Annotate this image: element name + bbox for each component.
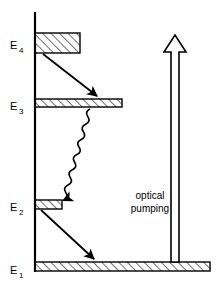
level-E1-label: E (10, 264, 17, 276)
level-E4-label: E (10, 39, 17, 51)
level-E4-subscript: 4 (19, 46, 24, 55)
level-E1-subscript: 1 (19, 271, 24, 280)
transition-e4-to-e3-arrow (43, 54, 97, 96)
level-E2-label: E (10, 201, 17, 213)
level-E3-subscript: 3 (19, 107, 24, 116)
level-E3-label: E (10, 100, 17, 112)
transition-e2-to-e1-arrow (41, 210, 94, 259)
level-E3: E 3 (10, 99, 122, 116)
optical-pumping-label-line1: optical (136, 190, 165, 201)
energy-diagram-canvas: E 4 E 3 E 2 E 1 optical pu (0, 0, 223, 285)
level-E1-bar (35, 262, 210, 271)
level-E2-bar (35, 200, 62, 209)
level-E1: E 1 (10, 262, 210, 280)
transition-e3-to-e2-wavy-arrow (64, 109, 90, 200)
energy-level-diagram-figure: E 4 E 3 E 2 E 1 optical pu (0, 0, 223, 285)
optical-pumping-arrow (164, 35, 186, 262)
level-E4: E 4 (10, 33, 80, 55)
optical-pumping-label-line2: pumping (131, 203, 169, 214)
level-E4-bar (35, 33, 80, 53)
level-E3-bar (35, 99, 122, 107)
level-E2-subscript: 2 (19, 208, 24, 217)
